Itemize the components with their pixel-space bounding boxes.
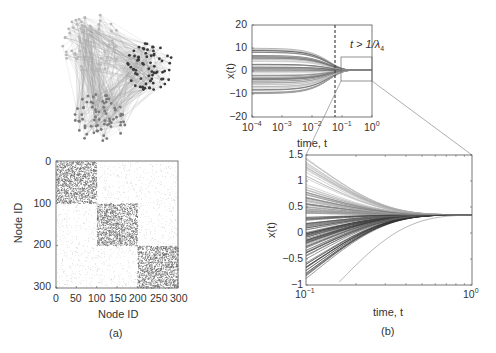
bot-xtick-0: 10−1 [295,287,315,300]
top-ytick-m10: −10 [229,87,247,99]
top-ylabel: x(t) [224,63,236,79]
tick-base: 10 [364,121,376,133]
top-xtick-2: 10−2 [302,120,322,133]
annotation-sub: 4 [380,45,384,52]
top-xtick-1: 10−3 [272,120,292,133]
tick-base: 10 [332,121,344,133]
tick-exp: −1 [307,287,315,294]
bot-ytick-m0.5: −0.5 [282,252,303,264]
tick-exp: −4 [254,120,262,127]
tick-exp: −2 [314,120,322,127]
top-ytick-10: 10 [235,41,247,53]
top-ytick-0: 0 [241,64,247,76]
bot-xlabel: time, t [373,306,403,318]
top-ytick-20: 20 [235,18,247,30]
caption-b: (b) [381,325,394,337]
tick-exp: 0 [475,287,479,294]
tick-base: 10 [272,121,284,133]
annotation-lambda: t > 1/λ4 [350,38,384,52]
bot-ytick-0: 0 [297,226,303,238]
top-xtick-3: 10−1 [332,120,352,133]
tick-exp: −3 [284,120,292,127]
consensus-plots [0,0,496,353]
tick-exp: 0 [376,120,380,127]
bot-ylabel: x(t) [265,222,277,238]
bot-xtick-1: 100 [463,287,479,300]
tick-base: 10 [242,121,254,133]
bot-ytick-0.5: 0.5 [288,200,303,212]
tick-base: 10 [463,288,475,300]
tick-exp: −1 [344,120,352,127]
tick-base: 10 [302,121,314,133]
bot-ytick-1.5: 1.5 [288,148,303,160]
bot-ytick-1: 1 [297,174,303,186]
top-xtick-4: 100 [364,120,380,133]
tick-base: 10 [295,288,307,300]
top-xtick-0: 10−4 [242,120,262,133]
annotation-text: t > 1/λ [350,38,380,50]
